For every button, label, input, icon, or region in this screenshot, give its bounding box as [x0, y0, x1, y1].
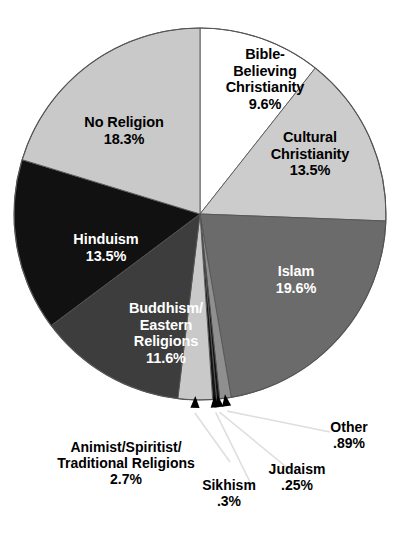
pie-slices-group	[14, 28, 386, 400]
leader-line-animist-spiritist-traditional-religions	[195, 413, 230, 462]
pie-slice-islam[interactable]	[200, 214, 386, 397]
leader-line-other	[227, 411, 330, 432]
pie-chart-canvas	[0, 0, 407, 537]
callout-leader-lines-group	[195, 411, 330, 486]
pie-chart-figure: Bible- Believing Christianity 9.6% Cultu…	[0, 0, 407, 537]
